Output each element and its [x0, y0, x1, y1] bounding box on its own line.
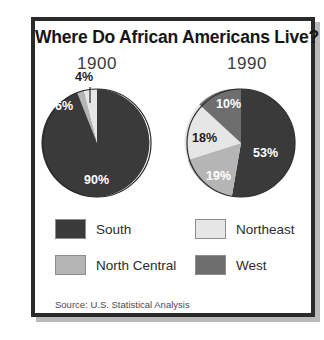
pie-1900-label-northeast: 4%: [75, 70, 93, 84]
page-title: Where Do African Americans Live?: [35, 27, 311, 48]
chart-frame: Where Do African Americans Live? 1900 19…: [31, 17, 315, 317]
legend-row: South Northeast: [47, 219, 305, 255]
legend-swatch-west: [195, 255, 226, 275]
panel-year-1900: 1900: [37, 54, 157, 74]
legend-label-northeast: Northeast: [236, 222, 295, 237]
pie-1990-svg: [175, 81, 315, 211]
panel-year-1990: 1990: [187, 54, 307, 74]
pie-chart-1900: 4% 6% 90%: [31, 81, 171, 215]
source-note: Source: U.S. Statistical Analysis: [55, 299, 190, 310]
legend-row: North Central West: [47, 255, 305, 291]
legend-item-north-central: North Central: [55, 255, 176, 275]
pie-chart-1990: 10% 18% 19% 53%: [175, 81, 315, 215]
pie-1900-label-south: 90%: [84, 173, 109, 187]
legend-label-north-central: North Central: [96, 258, 176, 273]
pie-1990-label-south: 53%: [253, 146, 278, 160]
chart-figure: Where Do African Americans Live? 1900 19…: [0, 0, 324, 340]
legend: South Northeast North Central West: [47, 219, 305, 291]
legend-item-west: West: [195, 255, 267, 275]
pie-1990-label-northeast: 18%: [192, 131, 217, 145]
legend-swatch-south: [55, 219, 86, 239]
pie-1900-svg: [31, 81, 171, 211]
legend-swatch-north-central: [55, 255, 86, 275]
slice-south-1990: [232, 89, 295, 197]
legend-item-south: South: [55, 219, 131, 239]
legend-label-south: South: [96, 222, 131, 237]
legend-swatch-northeast: [195, 219, 226, 239]
legend-label-west: West: [236, 258, 267, 273]
pie-1990-label-north-central: 19%: [206, 169, 231, 183]
pie-1900-label-north-central: 6%: [55, 99, 73, 113]
legend-item-northeast: Northeast: [195, 219, 295, 239]
pie-1990-label-west: 10%: [216, 97, 241, 111]
